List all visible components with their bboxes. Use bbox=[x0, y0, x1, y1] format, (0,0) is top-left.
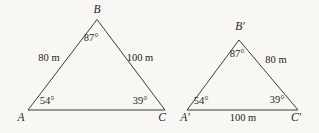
geometry-figure: B A C 87° 54° 39° 80 m 100 m B′ A′ C′ 87… bbox=[0, 0, 319, 133]
angle-label-a: 54° bbox=[40, 95, 55, 106]
angle-label-b-prime: 87° bbox=[230, 48, 245, 59]
angle-label-c-prime: 39° bbox=[270, 94, 285, 105]
triangle-abc: B A C 87° 54° 39° 80 m 100 m bbox=[16, 3, 166, 123]
vertex-label-c-prime: C′ bbox=[291, 111, 302, 123]
vertex-label-b-prime: B′ bbox=[235, 20, 245, 32]
similar-triangles-diagram: B A C 87° 54° 39° 80 m 100 m B′ A′ C′ 87… bbox=[0, 0, 319, 133]
angle-label-c: 39° bbox=[133, 95, 148, 106]
vertex-label-b: B bbox=[93, 3, 100, 15]
vertex-label-a-prime: A′ bbox=[179, 111, 190, 123]
side-label-b-prime-c-prime: 80 m bbox=[265, 54, 286, 65]
vertex-label-a: A bbox=[16, 111, 25, 123]
angle-label-b: 87° bbox=[84, 32, 99, 43]
side-label-ab: 80 m bbox=[38, 52, 59, 63]
side-label-a-prime-c-prime: 100 m bbox=[230, 112, 257, 123]
vertex-label-c: C bbox=[158, 111, 166, 123]
side-label-bc: 100 m bbox=[127, 52, 154, 63]
angle-label-a-prime: 54° bbox=[194, 95, 209, 106]
triangle-a-prime-b-prime-c-prime: B′ A′ C′ 87° 54° 39° 80 m 100 m bbox=[179, 20, 301, 123]
